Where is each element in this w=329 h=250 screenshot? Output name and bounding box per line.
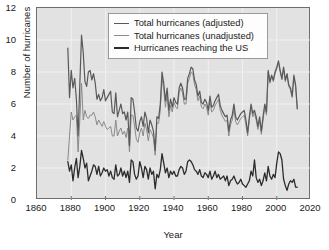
legend-line-adjusted-icon [114, 23, 129, 24]
y-axis-label: Number of hurricanes [21, 0, 32, 133]
y-tick-4: 4 [0, 130, 16, 141]
legend-line-unadjusted-icon [114, 35, 129, 36]
legend-item-unadjusted: Total hurricanes (unadjusted) [112, 30, 263, 43]
hurricane-timeseries-figure: Number of hurricanes Year 024681012 1860… [0, 0, 329, 250]
legend-label-adjusted: Total hurricanes (adjusted) [134, 17, 244, 30]
series-line-us-landfall [68, 150, 297, 190]
legend-label-us-landfall: Hurricanes reaching the US [134, 42, 248, 55]
legend-item-us-landfall: Hurricanes reaching the US [112, 42, 263, 55]
series-line-unadjusted [68, 62, 297, 160]
chart-legend: Total hurricanes (adjusted) Total hurric… [108, 13, 268, 59]
x-axis-label: Year [36, 229, 310, 240]
legend-line-us-landfall-icon [114, 47, 129, 49]
y-tick-6: 6 [0, 98, 16, 109]
y-tick-12: 12 [0, 2, 16, 13]
legend-label-unadjusted: Total hurricanes (unadjusted) [134, 30, 254, 43]
y-tick-10: 10 [0, 34, 16, 45]
legend-item-adjusted: Total hurricanes (adjusted) [112, 17, 263, 30]
y-tick-2: 2 [0, 162, 16, 173]
y-tick-8: 8 [0, 66, 16, 77]
y-tick-0: 0 [0, 194, 16, 205]
x-tick-2020: 2020 [290, 202, 329, 213]
